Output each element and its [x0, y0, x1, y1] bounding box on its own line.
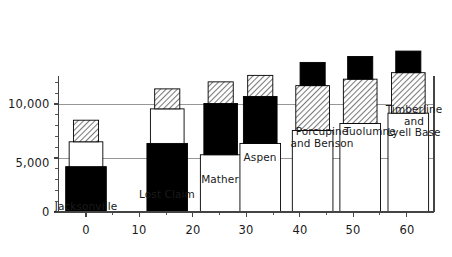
x-tick-label: 30: [238, 223, 253, 237]
x-tick-label: 0: [82, 223, 90, 237]
y-tick-label: 5,000: [0, 156, 50, 170]
x-tick-label: 40: [292, 223, 307, 237]
bar-caption: Jacksonville: [55, 201, 118, 213]
bar-segment-black: [243, 96, 277, 143]
bar-segment-hatched: [296, 86, 330, 131]
bar-segment-hatched: [73, 120, 98, 142]
bar-segment-hatched: [343, 79, 377, 123]
bar-segment-black: [147, 143, 188, 212]
bar-caption: Aspen: [244, 152, 277, 164]
x-tick-label: 20: [185, 223, 200, 237]
bar-segment-hatched: [208, 82, 233, 104]
bar-segment-black: [204, 103, 238, 154]
x-tick-label: 50: [345, 223, 360, 237]
bar-segment-white: [69, 142, 103, 167]
bar-group: [66, 120, 107, 212]
bar-caption: Timberline and Lyell Base: [386, 104, 443, 139]
bar-segment-black: [348, 56, 373, 79]
bar-segment-black: [396, 51, 421, 73]
bar-caption: Lost Claim: [139, 189, 195, 201]
bar-segment-white: [150, 109, 184, 144]
x-tick-label: 10: [131, 223, 146, 237]
y-tick-label: 10,000: [0, 97, 50, 111]
bar-caption: Mather: [201, 174, 239, 186]
bar-group: [200, 82, 241, 212]
x-tick-label: 60: [399, 223, 414, 237]
bar-segment-black: [300, 62, 325, 85]
bar-group: [240, 75, 281, 212]
stacked-bar-chart: 10,0005,0000 0102030405060 JacksonvilleL…: [0, 0, 452, 257]
bar-segment-hatched: [155, 89, 180, 109]
y-tick-label: 0: [0, 205, 50, 219]
bar-segment-hatched: [248, 75, 273, 96]
